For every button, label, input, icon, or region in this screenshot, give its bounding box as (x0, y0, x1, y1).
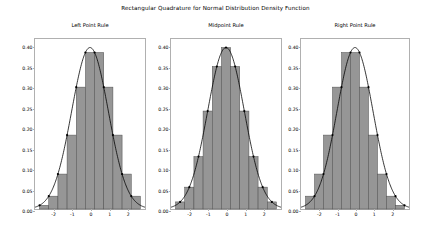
x-axis-tick-label: -2 (187, 212, 192, 217)
y-axis-tick-mark (299, 191, 301, 192)
sample-point-marker (358, 51, 360, 53)
sample-point-marker (252, 155, 254, 157)
y-axis-tick-label: 0.05 (288, 188, 298, 193)
y-axis-tick-label: 0.20 (158, 127, 168, 132)
chart-graphics (171, 39, 281, 209)
y-axis-tick-mark (299, 129, 301, 130)
bar (378, 174, 387, 209)
x-axis-tick-label: 2 (127, 212, 130, 217)
y-axis-tick-label: 0.20 (288, 127, 298, 132)
y-axis-tick-label: 0.10 (158, 168, 168, 173)
y-axis-tick-label: 0.25 (288, 106, 298, 111)
bar (104, 87, 113, 209)
sample-point-marker (179, 201, 181, 203)
bar (212, 66, 221, 209)
bar (185, 187, 194, 209)
sample-point-marker (39, 204, 41, 206)
x-axis-tick-mark (91, 209, 92, 211)
x-axis-tick-label: 1 (108, 212, 111, 217)
x-axis-tick-mark (227, 209, 228, 211)
y-axis-tick-mark (169, 88, 171, 89)
x-axis-tick-mark (72, 209, 73, 211)
bar (85, 52, 94, 209)
x-axis-tick-mark (208, 209, 209, 211)
y-axis-tick-label: 0.10 (288, 168, 298, 173)
y-axis-tick-label: 0.25 (22, 106, 32, 111)
sample-point-marker (394, 195, 396, 197)
y-axis-tick-mark (33, 170, 35, 171)
y-axis-tick-label: 0.20 (22, 127, 32, 132)
x-axis-tick-label: 0 (355, 212, 358, 217)
sample-point-marker (188, 186, 190, 188)
y-axis-tick-label: 0.30 (158, 86, 168, 91)
x-axis-tick-mark (246, 209, 247, 211)
bar (40, 205, 49, 209)
bar (221, 48, 230, 209)
subplot-title: Left Point Rule (34, 22, 146, 28)
bar (76, 87, 85, 209)
chart-graphics (301, 39, 409, 209)
bar (258, 187, 267, 209)
sample-point-marker (243, 110, 245, 112)
y-axis-tick-mark (169, 211, 171, 212)
y-axis-tick-mark (299, 68, 301, 69)
y-axis-tick-mark (169, 170, 171, 171)
y-axis-tick-mark (299, 88, 301, 89)
y-axis-tick-label: 0.30 (22, 86, 32, 91)
x-axis-tick-mark (110, 209, 111, 211)
plot-area: 0.000.050.100.150.200.250.300.350.40-2-1… (300, 38, 410, 210)
sample-point-marker (121, 173, 123, 175)
x-axis-tick-mark (190, 209, 191, 211)
bar (67, 135, 76, 209)
sample-point-marker (367, 86, 369, 88)
bar (249, 157, 258, 209)
y-axis-tick-label: 0.00 (158, 209, 168, 214)
figure-canvas: Rectangular Quadrature for Normal Distri… (0, 0, 431, 229)
bar-series (40, 52, 141, 209)
chart-graphics (35, 39, 145, 209)
y-axis-tick-label: 0.10 (22, 168, 32, 173)
sample-point-marker (376, 134, 378, 136)
x-axis-tick-label: -1 (70, 212, 75, 217)
y-axis-tick-label: 0.35 (288, 65, 298, 70)
sample-point-marker (262, 186, 264, 188)
bar (58, 174, 67, 209)
y-axis-tick-label: 0.15 (158, 147, 168, 152)
bar (351, 52, 360, 209)
sample-point-marker (234, 65, 236, 67)
sample-point-marker (66, 134, 68, 136)
y-axis-tick-label: 0.35 (158, 65, 168, 70)
y-axis-tick-mark (169, 191, 171, 192)
sample-point-marker (130, 195, 132, 197)
sample-point-marker (313, 195, 315, 197)
sample-point-marker (322, 173, 324, 175)
y-axis-tick-label: 0.05 (22, 188, 32, 193)
y-axis-tick-mark (299, 150, 301, 151)
y-axis-tick-mark (33, 191, 35, 192)
sample-point-marker (57, 173, 59, 175)
y-axis-tick-mark (169, 150, 171, 151)
sample-point-marker (48, 195, 50, 197)
x-axis-tick-mark (338, 209, 339, 211)
sample-point-marker (197, 155, 199, 157)
x-axis-tick-label: 1 (373, 212, 376, 217)
bar (369, 135, 378, 209)
y-axis-tick-mark (169, 129, 171, 130)
y-axis-tick-label: 0.40 (22, 45, 32, 50)
plot-area: 0.000.050.100.150.200.250.300.350.40-2-1… (34, 38, 146, 210)
bar (387, 196, 396, 209)
y-axis-tick-mark (33, 47, 35, 48)
sample-point-marker (103, 86, 105, 88)
y-axis-tick-mark (169, 109, 171, 110)
y-axis-tick-mark (169, 68, 171, 69)
x-axis-tick-label: -2 (51, 212, 56, 217)
bar (324, 135, 333, 209)
x-axis-tick-mark (264, 209, 265, 211)
x-axis-tick-mark (128, 209, 129, 211)
sample-point-marker (331, 134, 333, 136)
plot-area: 0.000.050.100.150.200.250.300.350.40-2-1… (170, 38, 282, 210)
subplot-midpoint-rule: Midpoint Rule 0.000.050.100.150.200.250.… (170, 0, 282, 229)
sample-point-marker (271, 201, 273, 203)
y-axis-tick-label: 0.15 (22, 147, 32, 152)
y-axis-tick-mark (33, 129, 35, 130)
